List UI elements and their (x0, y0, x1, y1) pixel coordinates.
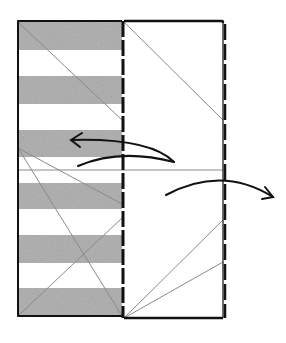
fold-diagram (0, 0, 286, 343)
stripe (19, 288, 122, 316)
crease-line (124, 22, 223, 120)
fold-left-arrow-tail (78, 156, 174, 166)
crease-line (124, 262, 223, 318)
stripe (19, 22, 122, 50)
stripe (19, 235, 122, 263)
stripes (19, 22, 122, 316)
stripe (19, 76, 122, 104)
stripe (19, 130, 122, 157)
crease-line (124, 220, 223, 318)
crease-lines (18, 22, 223, 318)
fold-right-arrow-shaft (166, 180, 273, 197)
striped-panel-outline (18, 21, 122, 316)
fold-right-arrow (166, 180, 273, 199)
